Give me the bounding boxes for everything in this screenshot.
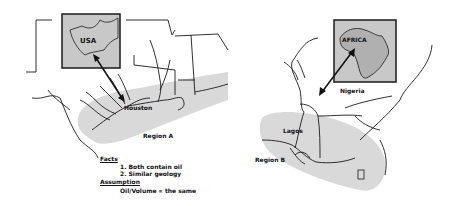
fact-2: 2. Similar geology: [120, 171, 181, 177]
assumption-heading: Assumption: [100, 179, 140, 185]
region-b-label: Region B: [255, 157, 285, 163]
usa-label: USA: [80, 38, 96, 45]
nigeria-label: Nigeria: [340, 88, 365, 94]
region-b-shading: [260, 112, 386, 191]
houston-label: Houston: [124, 105, 152, 111]
lagos-label: Lagos: [283, 128, 303, 134]
facts-heading: Facts: [100, 156, 118, 162]
diagram-canvas: [0, 0, 456, 206]
africa-label: AFRICA: [342, 37, 367, 43]
region-a-label: Region A: [143, 133, 173, 139]
assumption-text: Oil/Volume ∝ the same: [120, 188, 196, 194]
